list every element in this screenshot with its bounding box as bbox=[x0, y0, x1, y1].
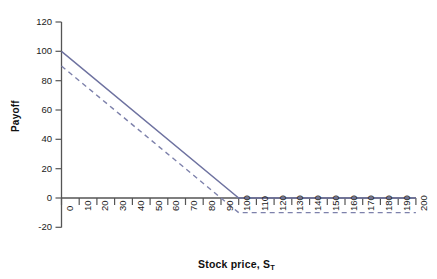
x-axis-title-text: Stock price, S bbox=[198, 258, 270, 270]
ytick-label: 120 bbox=[20, 17, 52, 27]
y-axis-ticks bbox=[56, 22, 62, 227]
xtick-label: 90 bbox=[225, 200, 235, 211]
xtick-label: 190 bbox=[402, 195, 412, 211]
x-axis-ticks bbox=[62, 198, 416, 205]
xtick-label: 30 bbox=[118, 200, 128, 211]
ytick-label: 40 bbox=[20, 134, 52, 144]
ytick-label: 100 bbox=[20, 46, 52, 56]
xtick-label: 110 bbox=[260, 196, 270, 211]
xtick-label: 120 bbox=[278, 195, 288, 211]
series-payoff-dashed bbox=[62, 66, 416, 213]
x-axis-title-subscript: T bbox=[270, 263, 275, 272]
x-axis-title: Stock price, ST bbox=[198, 258, 275, 270]
payoff-chart-figure: 120 100 80 60 40 20 0 -20 0 10 20 30 40 … bbox=[0, 0, 437, 279]
xtick-label: 10 bbox=[83, 200, 93, 211]
xtick-label: 160 bbox=[349, 195, 359, 211]
xtick-label: 170 bbox=[366, 195, 376, 211]
xtick-label: 140 bbox=[313, 195, 323, 211]
xtick-label: 180 bbox=[384, 195, 394, 211]
series-payoff-solid bbox=[62, 51, 416, 198]
xtick-label: 60 bbox=[171, 200, 181, 211]
ytick-label: 80 bbox=[20, 76, 52, 86]
ytick-label: -20 bbox=[20, 222, 52, 232]
xtick-label: 200 bbox=[419, 195, 429, 211]
ytick-label: 60 bbox=[20, 105, 52, 115]
xtick-label: 0 bbox=[65, 206, 75, 211]
xtick-label: 70 bbox=[189, 200, 199, 211]
xtick-label: 150 bbox=[331, 195, 341, 211]
xtick-label: 50 bbox=[154, 200, 164, 211]
xtick-label: 100 bbox=[242, 195, 252, 211]
ytick-label: 0 bbox=[20, 193, 52, 203]
xtick-label: 20 bbox=[100, 200, 110, 211]
y-axis-title: Payoff bbox=[10, 100, 21, 132]
xtick-label: 130 bbox=[295, 195, 305, 211]
xtick-label: 40 bbox=[136, 200, 146, 211]
ytick-label: 20 bbox=[20, 164, 52, 174]
chart-plot-area bbox=[0, 0, 437, 279]
xtick-label: 80 bbox=[207, 200, 217, 211]
